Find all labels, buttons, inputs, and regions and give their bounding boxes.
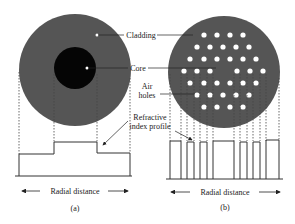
label-refractive-1: Refractive xyxy=(133,113,167,122)
caption-a: (a) xyxy=(71,204,80,213)
panel-a-fiber xyxy=(19,14,131,126)
panel-a-profile xyxy=(15,142,132,176)
caption-b: (b) xyxy=(220,203,230,212)
label-air-holes-2: holes xyxy=(139,91,156,100)
radial-distance-a: Radial distance xyxy=(50,187,100,196)
label-cladding: Cladding xyxy=(126,31,155,40)
label-core: Core xyxy=(130,64,146,73)
panel-b-profile xyxy=(166,140,283,179)
fiber-diagram: Radial distance (a) xyxy=(0,0,295,224)
panel-a-axis: Radial distance (a) xyxy=(22,187,128,213)
radial-distance-b: Radial distance xyxy=(200,188,250,197)
panel-b-axis: Radial distance (b) xyxy=(171,188,280,212)
label-refractive-2: index profile xyxy=(129,122,171,131)
panel-b-fiber xyxy=(168,16,280,128)
label-air-holes-1: Air xyxy=(142,82,153,91)
